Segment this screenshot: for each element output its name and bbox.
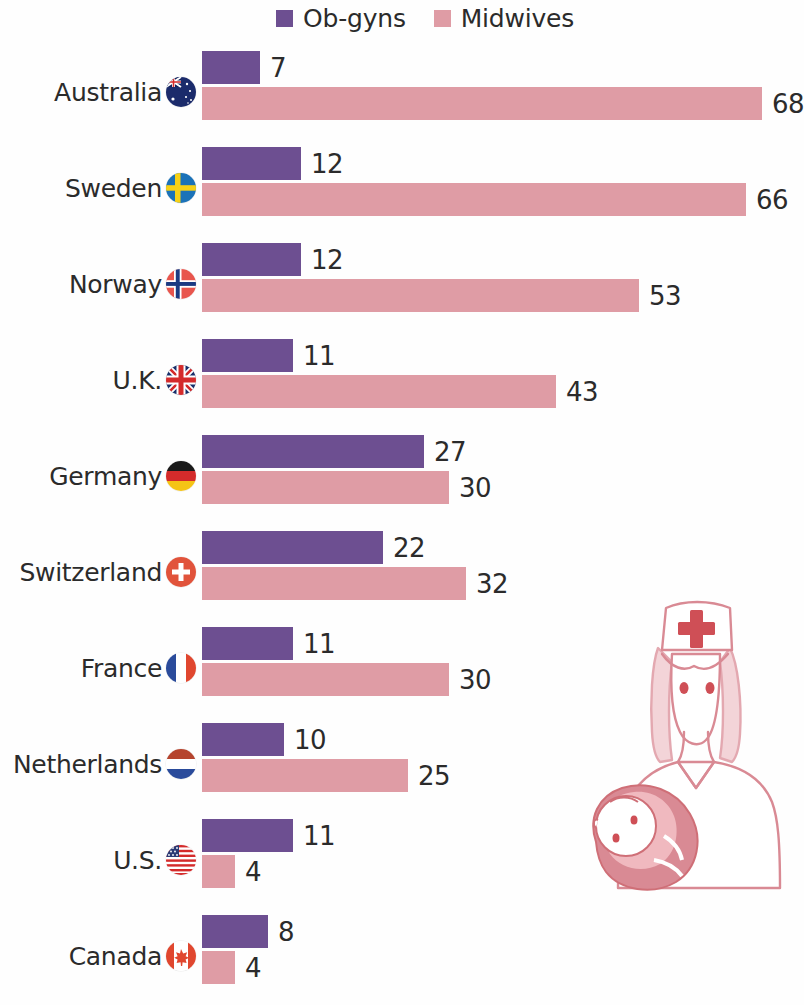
row-label-netherlands: Netherlands (0, 716, 198, 812)
bar-midwife (202, 567, 466, 600)
bar-group-obgyn: 8 (202, 915, 294, 948)
row-bars: 2730 (202, 428, 804, 524)
chart-row: U.S.114 (0, 812, 804, 908)
country-label: Norway (69, 270, 162, 299)
bar-value-label: 25 (418, 761, 450, 791)
bar-value-label: 30 (459, 473, 491, 503)
bar-value-label: 10 (294, 725, 326, 755)
bar-value-label: 7 (270, 53, 286, 83)
bar-obgyn (202, 627, 293, 660)
legend-entry-obgyns: Ob-gyns (276, 4, 406, 33)
bar-midwife (202, 375, 556, 408)
flag-canada-icon (166, 941, 196, 971)
legend-entry-midwives: Midwives (434, 4, 574, 33)
bar-value-label: 4 (245, 857, 261, 887)
bar-group-midwife: 30 (202, 471, 491, 504)
bar-value-label: 12 (311, 245, 343, 275)
bar-value-label: 11 (303, 629, 335, 659)
flag-norway-icon (166, 269, 196, 299)
flag-usa-icon (166, 845, 196, 875)
bar-group-obgyn: 27 (202, 435, 466, 468)
country-label: Netherlands (13, 750, 162, 779)
bar-value-label: 4 (245, 953, 261, 983)
chart-row: Sweden1266 (0, 140, 804, 236)
bar-midwife (202, 951, 235, 984)
country-label: Sweden (65, 174, 162, 203)
bar-group-obgyn: 11 (202, 627, 335, 660)
country-label: France (81, 654, 162, 683)
bar-group-midwife: 4 (202, 951, 261, 984)
bar-value-label: 11 (303, 341, 335, 371)
legend-label-midwives: Midwives (461, 4, 574, 33)
chart-plot-area: Australia768Sweden1266Norway1253U.K.1143… (0, 36, 804, 1005)
chart-row: France1130 (0, 620, 804, 716)
bar-midwife (202, 183, 746, 216)
bar-group-obgyn: 12 (202, 147, 343, 180)
country-label: U.S. (113, 846, 162, 875)
row-label-norway: Norway (0, 236, 198, 332)
bar-midwife (202, 471, 449, 504)
row-label-australia: Australia (0, 44, 198, 140)
flag-germany-icon (166, 461, 196, 491)
chart-row: Australia768 (0, 44, 804, 140)
chart-row: U.K.1143 (0, 332, 804, 428)
row-label-switzerland: Switzerland (0, 524, 198, 620)
chart-row: Germany2730 (0, 428, 804, 524)
bar-value-label: 32 (476, 569, 508, 599)
chart-row: Switzerland2232 (0, 524, 804, 620)
bar-group-midwife: 43 (202, 375, 598, 408)
legend-label-obgyns: Ob-gyns (303, 4, 406, 33)
chart-row: Canada84 (0, 908, 804, 1004)
bar-obgyn (202, 531, 383, 564)
bar-value-label: 53 (649, 281, 681, 311)
row-bars: 2232 (202, 524, 804, 620)
bar-obgyn (202, 723, 284, 756)
country-label: U.K. (113, 366, 162, 395)
country-label: Canada (69, 942, 162, 971)
chart-root: Ob-gyns Midwives Australia768Sweden1266N… (0, 0, 804, 1005)
bar-group-midwife: 68 (202, 87, 804, 120)
bar-value-label: 30 (459, 665, 491, 695)
country-label: Australia (54, 78, 162, 107)
square-swatch-icon (434, 10, 451, 27)
row-bars: 1025 (202, 716, 804, 812)
bar-obgyn (202, 435, 424, 468)
bar-group-midwife: 30 (202, 663, 491, 696)
row-bars: 1253 (202, 236, 804, 332)
row-label-us: U.S. (0, 812, 198, 908)
bar-group-midwife: 4 (202, 855, 261, 888)
bar-group-obgyn: 11 (202, 339, 335, 372)
country-label: Switzerland (19, 558, 162, 587)
row-bars: 84 (202, 908, 804, 1004)
flag-netherlands-icon (166, 749, 196, 779)
bar-value-label: 12 (311, 149, 343, 179)
bar-midwife (202, 663, 449, 696)
row-label-france: France (0, 620, 198, 716)
flag-uk-icon (166, 365, 196, 395)
bar-group-obgyn: 10 (202, 723, 326, 756)
bar-value-label: 27 (434, 437, 466, 467)
chart-row: Norway1253 (0, 236, 804, 332)
bar-group-obgyn: 12 (202, 243, 343, 276)
flag-france-icon (166, 653, 196, 683)
bar-group-obgyn: 11 (202, 819, 335, 852)
flag-australia-icon (166, 77, 196, 107)
bar-obgyn (202, 147, 301, 180)
bar-midwife (202, 87, 762, 120)
row-bars: 1143 (202, 332, 804, 428)
row-label-sweden: Sweden (0, 140, 198, 236)
country-label: Germany (49, 462, 162, 491)
square-swatch-icon (276, 10, 293, 27)
chart-row: Netherlands1025 (0, 716, 804, 812)
row-bars: 114 (202, 812, 804, 908)
bar-value-label: 68 (772, 89, 804, 119)
bar-obgyn (202, 915, 268, 948)
bar-group-obgyn: 22 (202, 531, 425, 564)
flag-sweden-icon (166, 173, 196, 203)
bar-group-obgyn: 7 (202, 51, 286, 84)
row-label-uk: U.K. (0, 332, 198, 428)
bar-group-midwife: 32 (202, 567, 508, 600)
bar-value-label: 66 (756, 185, 788, 215)
bar-obgyn (202, 339, 293, 372)
bar-value-label: 8 (278, 917, 294, 947)
